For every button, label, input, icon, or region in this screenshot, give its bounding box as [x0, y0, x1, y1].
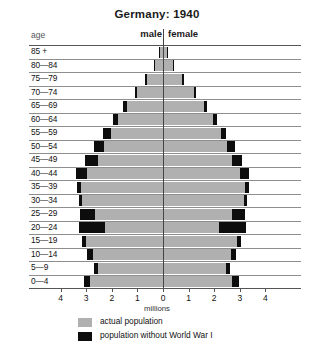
- x-axis-tick-label: 3: [76, 293, 96, 303]
- female-side-header: female: [168, 28, 222, 39]
- bar-male-actual: [155, 60, 163, 71]
- x-axis-tick-label: 1: [179, 293, 199, 303]
- bar-female-actual: [163, 182, 245, 193]
- age-band-label: 5—9: [31, 262, 69, 272]
- bar-female-actual: [163, 101, 204, 112]
- bar-female-actual: [163, 114, 213, 125]
- bar-male-actual: [147, 74, 163, 85]
- age-band-label: 50—54: [31, 141, 69, 151]
- bar-female-actual: [163, 74, 182, 85]
- bar-male-actual: [111, 128, 163, 139]
- age-band-label: 55—59: [31, 127, 69, 137]
- x-axis-tick: [240, 288, 241, 292]
- bar-male-actual: [127, 101, 163, 112]
- bar-male-actual: [93, 249, 163, 260]
- age-band-label: 30—34: [31, 195, 69, 205]
- age-band-label: 85 +: [31, 46, 69, 56]
- bar-male-actual: [98, 263, 163, 274]
- x-axis-tick-label: 3: [230, 293, 250, 303]
- bar-female-actual: [163, 195, 244, 206]
- age-band-label: 25—29: [31, 208, 69, 218]
- x-axis-tick-label: 0: [153, 293, 173, 303]
- age-band-label: 60—64: [31, 114, 69, 124]
- age-band-label: 45—49: [31, 154, 69, 164]
- bar-male-actual: [82, 195, 163, 206]
- bar-male-actual: [137, 87, 163, 98]
- x-axis-tick-label: 4: [255, 293, 275, 303]
- figure-caption: [6, 355, 306, 363]
- x-axis-tick: [61, 288, 62, 292]
- x-axis-tick: [112, 288, 113, 292]
- x-axis-tick: [137, 288, 138, 292]
- x-axis-tick-label: 2: [102, 293, 122, 303]
- bar-male-actual: [81, 182, 163, 193]
- age-band-label: 70—74: [31, 87, 69, 97]
- male-side-header: male: [112, 28, 162, 39]
- x-axis-tick-label: 1: [127, 293, 147, 303]
- age-band-label: 20—24: [31, 222, 69, 232]
- bar-male-actual: [104, 141, 163, 152]
- bar-male-actual: [90, 276, 163, 287]
- age-band-label: 0—4: [31, 276, 69, 286]
- x-axis-tick: [214, 288, 215, 292]
- bar-female-actual: [163, 249, 231, 260]
- legend-label-actual: actual population: [100, 316, 163, 326]
- age-band-label: 40—44: [31, 168, 69, 178]
- age-column-header: age: [31, 30, 45, 40]
- x-axis-tick: [265, 288, 266, 292]
- bar-female-actual: [163, 276, 232, 287]
- age-band-label: 80—84: [31, 60, 69, 70]
- x-axis-title: millions: [0, 304, 314, 313]
- age-band-label: 75—79: [31, 73, 69, 83]
- bar-male-actual: [118, 114, 163, 125]
- x-axis-tick: [189, 288, 190, 292]
- age-band-label: 65—69: [31, 100, 69, 110]
- bar-female-actual: [163, 128, 221, 139]
- bar-female-actual: [163, 263, 226, 274]
- bar-female-actual: [163, 155, 232, 166]
- age-band-label: 10—14: [31, 249, 69, 259]
- bar-male-actual: [86, 236, 163, 247]
- plot-area: 0—45—910—1415—1920—2425—2930—3435—3940—4…: [29, 45, 301, 288]
- x-axis-tick: [86, 288, 87, 292]
- bar-female-actual: [163, 87, 194, 98]
- age-band-label: 15—19: [31, 235, 69, 245]
- bar-male-actual: [87, 168, 163, 179]
- population-pyramid-figure: Germany: 1940 age male female 0—45—910—1…: [0, 0, 314, 363]
- bar-female-actual: [163, 141, 227, 152]
- x-axis-line: [29, 288, 301, 289]
- bar-male-actual: [98, 155, 163, 166]
- legend-swatch-without-ww1: [78, 332, 92, 341]
- bar-male-actual: [105, 222, 163, 233]
- x-axis-tick-label: 4: [51, 293, 71, 303]
- bar-male-actual: [95, 209, 163, 220]
- bar-female-actual: [163, 222, 219, 233]
- legend-label-without-ww1: population without World War I: [100, 330, 213, 340]
- bar-female-actual: [163, 60, 173, 71]
- chart-title: Germany: 1940: [0, 8, 314, 20]
- bar-female-actual: [163, 236, 237, 247]
- x-axis-tick-label: 2: [204, 293, 224, 303]
- bar-female-actual: [163, 209, 232, 220]
- legend-swatch-actual: [78, 318, 92, 327]
- center-axis-line: [163, 29, 164, 288]
- x-axis-tick: [163, 288, 164, 292]
- age-band-label: 35—39: [31, 181, 69, 191]
- bar-female-actual: [163, 168, 240, 179]
